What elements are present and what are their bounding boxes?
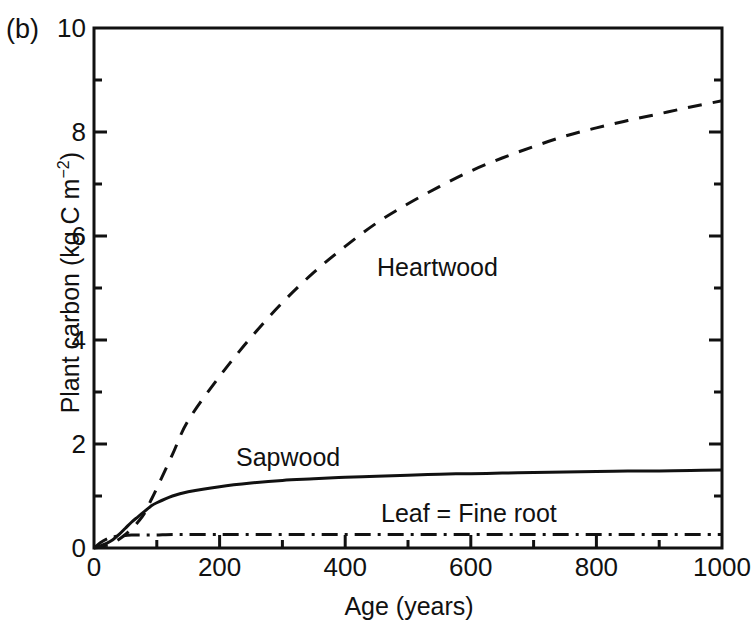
x-tick-label: 600 [449, 552, 492, 583]
x-tick-label: 200 [198, 552, 241, 583]
x-tick-label: 0 [87, 552, 101, 583]
figure-panel-b: (b) Plant carbon (kg C m−2) Age (years) … [0, 0, 756, 633]
plot-canvas [0, 0, 756, 633]
series-label-heartwood: Heartwood [377, 253, 498, 282]
x-tick-label: 1000 [693, 552, 751, 583]
x-tick-label: 400 [323, 552, 366, 583]
series-label-leaf-fine-root: Leaf = Fine root [381, 499, 557, 528]
x-tick-label: 800 [575, 552, 618, 583]
series-line-heartwood [94, 101, 722, 548]
series-label-sapwood: Sapwood [236, 443, 340, 472]
